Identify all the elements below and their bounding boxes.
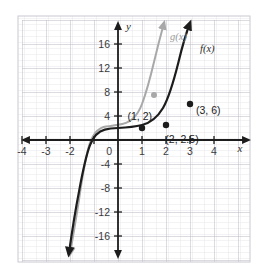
point-marker-1-2 — [139, 125, 145, 131]
x-tick-label-3: 3 — [187, 145, 193, 157]
coordinate-graph-figure: -4 -3 -2 1 2 3 4 0 16 12 8 4 -4 -8 -12 -… — [0, 0, 267, 277]
point-marker-g-curve — [151, 92, 157, 98]
y-tick-label--12: -12 — [95, 206, 110, 218]
y-tick-label-16: 16 — [98, 38, 110, 50]
x-tick-label--2: -2 — [65, 145, 74, 157]
x-tick-label-4: 4 — [211, 145, 217, 157]
point-label-1-2: (1, 2) — [127, 110, 152, 122]
x-tick-label--4: -4 — [17, 145, 26, 157]
y-tick-label--8: -8 — [101, 182, 110, 194]
x-axis-label: x — [237, 142, 243, 154]
y-tick-label--4: -4 — [101, 158, 110, 170]
point-marker-2-2.5 — [163, 122, 169, 128]
y-tick-label-12: 12 — [98, 62, 110, 74]
origin-label: 0 — [106, 145, 112, 157]
curve-label-f: f(x) — [200, 43, 215, 55]
y-tick-label-8: 8 — [104, 86, 110, 98]
curve-label-g: g(x) — [170, 31, 187, 43]
x-tick-label-2: 2 — [163, 145, 169, 157]
grid-group — [18, 16, 250, 262]
y-tick-label--16: -16 — [95, 230, 110, 242]
major-gridlines — [22, 20, 250, 262]
graph-canvas: -4 -3 -2 1 2 3 4 0 16 12 8 4 -4 -8 -12 -… — [0, 0, 267, 277]
x-tick-label--3: -3 — [41, 145, 50, 157]
y-tick-label-4: 4 — [104, 110, 110, 122]
point-marker-3-6 — [187, 101, 193, 107]
x-tick-label-1: 1 — [139, 145, 145, 157]
y-axis-label: y — [125, 20, 131, 32]
point-label-3-6: (3, 6) — [196, 104, 221, 116]
point-label-2-2.5: (2, 2.5) — [165, 133, 198, 145]
